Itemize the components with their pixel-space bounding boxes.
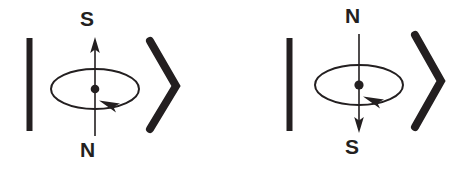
right-panel-bottom-pole-label: S [345,136,360,157]
right-panel-right-chevron [415,35,441,127]
left-panel-right-chevron [150,41,176,129]
left-panel-center-dot [91,85,100,94]
left-panel-top-pole-label: S [80,8,95,29]
right-panel-center-dot [354,80,363,89]
right-panel-top-pole-label: N [345,5,361,26]
left-panel-bottom-pole-label: N [80,139,96,160]
diagram-canvas [0,0,465,173]
left-panel [30,37,177,136]
right-panel [290,34,442,133]
magnetic-dipole-figure: S N N S [0,0,465,173]
